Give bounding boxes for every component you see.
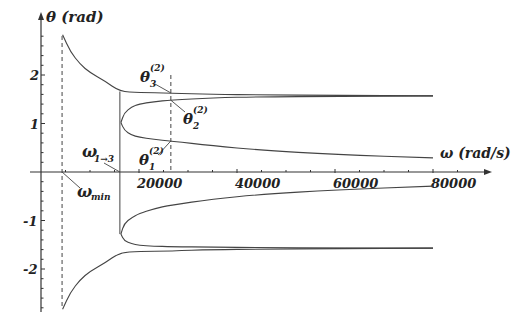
y-tick-label: 2: [29, 68, 39, 83]
y-tick-label: -1: [23, 214, 37, 229]
curve-theta1-upper: [121, 123, 433, 158]
chart: 20000400006000080000-2-112 θ (rad) ω (ra…: [0, 0, 515, 329]
svg-text:(2): (2): [150, 63, 165, 73]
svg-text:min: min: [91, 192, 111, 202]
leader-theta3: [155, 84, 171, 93]
plot-area: 20000400006000080000-2-112 θ (rad) ω (ra…: [0, 0, 515, 329]
svg-text:(2): (2): [193, 105, 208, 115]
curve-theta1-lower: [121, 186, 433, 234]
svg-text:1→3: 1→3: [94, 154, 114, 164]
y-tick-label: 1: [30, 117, 39, 132]
svg-text:θ: θ: [139, 151, 149, 169]
y-axis-arrow-icon: [38, 12, 44, 20]
omega-1to3-label: ω 1→3: [82, 142, 114, 164]
leader-omega-1to3: [104, 163, 120, 172]
svg-text:2: 2: [192, 121, 199, 131]
svg-text:(2): (2): [149, 146, 164, 156]
svg-text:3: 3: [150, 79, 156, 89]
x-tick-label: 80000: [431, 176, 476, 191]
x-axis-label: ω (rad/s): [440, 145, 511, 161]
svg-text:θ: θ: [183, 110, 193, 128]
curve-theta3-upper: [63, 35, 433, 96]
svg-text:ω: ω: [77, 182, 92, 201]
svg-text:1: 1: [149, 162, 155, 172]
theta3-label: θ 3 (2): [140, 63, 165, 89]
curve-theta2-upper: [121, 96, 433, 123]
y-tick-label: -2: [23, 262, 37, 277]
y-axis-label: θ (rad): [46, 8, 104, 26]
x-tick-label: 20000: [136, 176, 182, 191]
curve-theta2-lower: [121, 234, 433, 248]
curve-theta3-lower: [63, 248, 433, 309]
x-axis-arrow-icon: [484, 169, 492, 175]
theta2-label: θ 2 (2): [183, 105, 208, 131]
svg-text:θ: θ: [140, 68, 150, 86]
omega-min-label: ω min: [77, 182, 111, 202]
x-tick-label: 40000: [235, 176, 280, 191]
theta1-label: θ 1 (2): [139, 146, 164, 172]
